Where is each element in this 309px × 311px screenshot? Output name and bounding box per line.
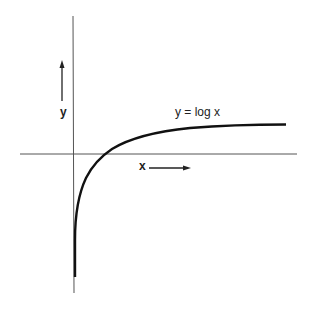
graph-svg bbox=[0, 0, 309, 311]
log-curve bbox=[75, 125, 286, 278]
right-arrow-icon bbox=[149, 166, 191, 171]
x-axis-label: x bbox=[139, 160, 146, 172]
log-graph-diagram: y x y = log x bbox=[0, 0, 309, 311]
up-arrow-icon bbox=[60, 60, 65, 101]
equation-label: y = log x bbox=[175, 106, 220, 118]
y-axis-label: y bbox=[60, 106, 67, 118]
